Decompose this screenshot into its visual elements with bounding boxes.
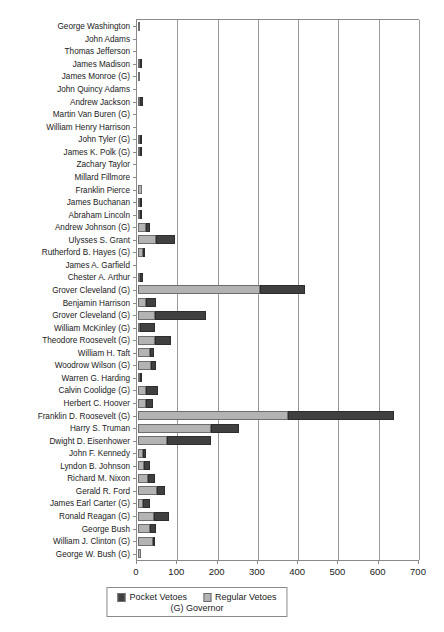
bar-stack	[138, 72, 140, 81]
y-axis-tick	[133, 190, 137, 191]
veto-chart: George WashingtonJohn AdamsThomas Jeffer…	[0, 0, 444, 632]
bar-stack	[138, 386, 158, 395]
category-label: James Monroe (G)	[62, 72, 130, 81]
y-axis-tick	[133, 441, 137, 442]
y-axis-tick	[133, 466, 137, 467]
bar-segment-regular-vetoes	[138, 22, 140, 31]
x-tick-label-600: 600	[370, 566, 386, 577]
bar-row: Thomas Jefferson	[137, 45, 418, 58]
x-tick-700	[418, 560, 419, 564]
bar-row: Harry S. Truman	[137, 422, 418, 435]
y-axis-tick	[133, 416, 137, 417]
bar-segment-regular-vetoes	[138, 285, 260, 294]
bar-row: Theodore Roosevelt (G)	[137, 334, 418, 347]
category-label: John F. Kennedy	[69, 449, 130, 458]
bar-stack	[138, 59, 142, 68]
category-label: Thomas Jefferson	[65, 47, 130, 56]
bar-segment-regular-vetoes	[138, 486, 157, 495]
y-axis-tick	[133, 89, 137, 90]
category-label: Herbert C. Hoover	[64, 399, 130, 408]
bar-segment-pocket-vetoes	[157, 486, 164, 495]
y-axis-tick	[133, 164, 137, 165]
bar-segment-regular-vetoes	[138, 336, 155, 345]
legend-label-pocket-vetoes: Pocket Vetoes	[129, 592, 187, 602]
bar-row: Woodrow Wilson (G)	[137, 359, 418, 372]
y-axis-tick	[133, 127, 137, 128]
bar-segment-pocket-vetoes	[146, 386, 158, 395]
bar-segment-regular-vetoes	[138, 348, 150, 357]
y-axis-tick	[133, 453, 137, 454]
bar-row: James Monroe (G)	[137, 70, 418, 83]
x-axis-ticks: 0100200300400500600700	[136, 560, 419, 565]
y-axis-tick	[133, 315, 137, 316]
category-label: James K. Polk (G)	[64, 147, 130, 156]
bar-segment-regular-vetoes	[138, 524, 150, 533]
bar-segment-pocket-vetoes	[140, 59, 142, 68]
y-axis-tick	[133, 428, 137, 429]
y-axis-tick	[133, 516, 137, 517]
bar-stack	[138, 135, 142, 144]
bar-segment-pocket-vetoes	[153, 537, 155, 546]
y-axis-tick	[133, 365, 137, 366]
bar-stack	[138, 210, 142, 219]
y-axis-tick	[133, 152, 137, 153]
bar-row: Lyndon B. Johnson	[137, 460, 418, 473]
bar-row: Gerald R. Ford	[137, 485, 418, 498]
category-label: James Earl Carter (G)	[50, 499, 130, 508]
bar-row: Chester A. Arthur	[137, 271, 418, 284]
category-label: George Washington	[57, 22, 130, 31]
category-label: Chester A. Arthur	[68, 273, 130, 282]
bar-row: Warren G. Harding	[137, 372, 418, 385]
bar-row: John Adams	[137, 33, 418, 46]
bar-row: John Tyler (G)	[137, 133, 418, 146]
bar-row: George Washington	[137, 20, 418, 33]
category-label: William McKinley (G)	[54, 323, 130, 332]
y-axis-tick	[133, 26, 137, 27]
y-axis-tick	[133, 277, 137, 278]
bar-segment-pocket-vetoes	[140, 97, 143, 106]
category-label: John Tyler (G)	[78, 135, 130, 144]
bar-stack	[138, 336, 171, 345]
category-label: Franklin D. Roosevelt (G)	[38, 411, 130, 420]
bar-segment-pocket-vetoes	[260, 285, 304, 294]
bar-segment-pocket-vetoes	[146, 298, 156, 307]
x-tick-300	[257, 560, 258, 564]
bar-stack	[138, 185, 142, 194]
x-tick-400	[297, 560, 298, 564]
bar-segment-regular-vetoes	[138, 399, 146, 408]
bar-stack	[138, 147, 142, 156]
category-label: Gerald R. Ford	[76, 486, 130, 495]
bar-stack	[138, 248, 145, 257]
bar-stack	[138, 235, 175, 244]
bar-segment-pocket-vetoes	[140, 273, 143, 282]
bar-row: Franklin Pierce	[137, 183, 418, 196]
category-label: Rutherford B. Hayes (G)	[42, 248, 130, 257]
bar-row: Millard Fillmore	[137, 171, 418, 184]
bar-row: William H. Taft	[137, 347, 418, 360]
category-label: Benjamin Harrison	[63, 298, 130, 307]
bar-segment-pocket-vetoes	[143, 499, 150, 508]
y-axis-tick	[133, 39, 137, 40]
y-axis-tick	[133, 177, 137, 178]
y-axis-tick	[133, 378, 137, 379]
bar-segment-pocket-vetoes	[140, 198, 142, 207]
bar-segment-pocket-vetoes	[155, 311, 207, 320]
y-axis-tick	[133, 240, 137, 241]
bar-row: John Quincy Adams	[137, 83, 418, 96]
y-axis-tick	[133, 76, 137, 77]
x-tick-500	[337, 560, 338, 564]
bar-row: Dwight D. Eisenhower	[137, 434, 418, 447]
bar-segment-pocket-vetoes	[155, 336, 171, 345]
bar-stack	[138, 499, 150, 508]
bar-segment-pocket-vetoes	[143, 449, 147, 458]
category-label: Andrew Johnson (G)	[55, 223, 130, 232]
y-axis-tick	[133, 290, 137, 291]
bar-stack	[138, 97, 143, 106]
category-label: William J. Clinton (G)	[53, 537, 130, 546]
bar-segment-pocket-vetoes	[146, 223, 149, 232]
bar-stack	[138, 537, 155, 546]
category-label: Andrew Jackson	[70, 97, 130, 106]
bar-row: William J. Clinton (G)	[137, 535, 418, 548]
y-axis-tick	[133, 252, 137, 253]
chart-legend: Pocket Vetoes Regular Vetoes (G) Governo…	[106, 587, 287, 617]
